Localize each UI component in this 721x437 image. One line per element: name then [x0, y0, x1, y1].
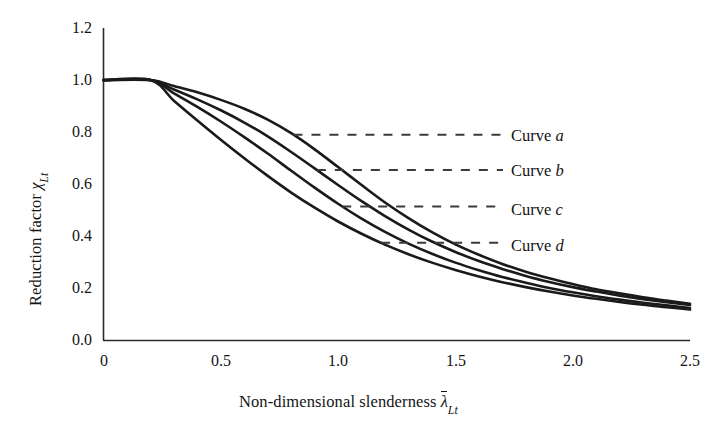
curve-a — [104, 80, 691, 304]
x-axis-title-text: Non-dimensional slenderness — [239, 392, 441, 411]
data-curves — [104, 79, 691, 310]
legend-text-b: Curve — [511, 161, 555, 180]
y-tick-label-1_0: 1.0 — [48, 71, 92, 89]
legend-letter-a: a — [555, 126, 563, 145]
x-tick-label-0: 0 — [82, 352, 126, 370]
x-axis-symbol: λ — [441, 392, 448, 411]
legend-label-curve-d: Curve d — [511, 236, 564, 256]
y-tick-label-0_0: 0.0 — [48, 331, 92, 349]
legend-letter-c: c — [555, 200, 562, 219]
legend-leader-lines — [293, 135, 503, 243]
x-tick-label-0_5: 0.5 — [199, 352, 243, 370]
x-tick-label-1_0: 1.0 — [316, 352, 360, 370]
chart-figure: Reduction factor χLt Non-dimensional sle… — [0, 0, 721, 437]
x-tick-label-2_5: 2.5 — [668, 352, 712, 370]
y-axis-title: Reduction factor χLt — [26, 172, 49, 306]
y-tick-label-1_2: 1.2 — [48, 19, 92, 37]
y-tick-label-0_6: 0.6 — [48, 175, 92, 193]
legend-letter-b: b — [555, 161, 563, 180]
legend-label-curve-c: Curve c — [511, 200, 563, 220]
legend-text-d: Curve — [511, 236, 555, 255]
y-tick-label-0_4: 0.4 — [48, 227, 92, 245]
y-tick-label-0_2: 0.2 — [48, 279, 92, 297]
legend-label-curve-a: Curve a — [511, 126, 564, 146]
x-axis-title: Non-dimensional slenderness λLt — [239, 392, 458, 415]
legend-text-a: Curve — [511, 126, 555, 145]
y-axis-title-text: Reduction factor — [26, 190, 45, 306]
legend-label-curve-b: Curve b — [511, 161, 564, 181]
x-axis-subscript: Lt — [448, 403, 458, 417]
y-tick-label-0_8: 0.8 — [48, 123, 92, 141]
x-tick-label-2_0: 2.0 — [551, 352, 595, 370]
legend-text-c: Curve — [511, 200, 555, 219]
curve-d — [104, 79, 691, 310]
y-axis-symbol: χ — [26, 182, 45, 189]
x-tick-label-1_5: 1.5 — [434, 352, 478, 370]
curve-c — [104, 79, 691, 308]
legend-letter-d: d — [555, 236, 563, 255]
plot-area — [0, 0, 721, 437]
curve-b — [104, 79, 691, 305]
